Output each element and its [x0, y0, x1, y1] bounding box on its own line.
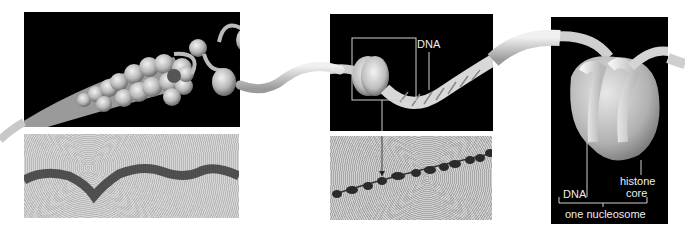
beads-micrograph [330, 136, 492, 220]
dna-label-nucleosome: DNA [563, 189, 586, 200]
beads-on-string-panel: DNA [330, 14, 493, 131]
fiber-micrograph [24, 134, 239, 218]
chromatin-fiber-panel [24, 12, 240, 127]
beads-micrograph-strand [330, 136, 492, 220]
histone-label-line1: histone [620, 176, 655, 187]
fiber-micrograph-strand [24, 134, 239, 218]
beads-on-string-illustration [330, 14, 493, 131]
histone-label-line2: core [626, 188, 647, 199]
nucleosome-label: one nucleosome [565, 209, 646, 220]
dna-label: DNA [417, 39, 440, 50]
chromatin-fiber-illustration [24, 12, 240, 127]
nucleosome-detail-panel: DNA histone core one nucleosome [551, 17, 668, 224]
